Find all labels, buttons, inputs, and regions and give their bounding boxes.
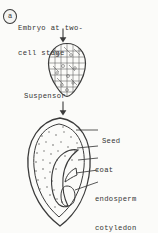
badge-letter: a [8,13,12,20]
down-arrow-icon [57,28,69,43]
seed-cross-section-drawing [20,116,98,228]
seed-label-endosperm: endosperm [95,195,137,205]
figure-page: a Embryo at two- cell stage S [0,0,158,233]
seed-label-list: Seed coat endosperm cotyledon epicotyl h… [95,118,137,233]
seed-label-seed: Seed [95,137,137,147]
seed-label-coat: coat [95,166,137,176]
down-arrow-icon [57,101,69,116]
seed-label-cotyledon: cotyledon [95,224,137,233]
suspensor-label: Suspensor [24,92,66,100]
figure-part-label-badge: a [3,9,17,24]
two-cell-embryo-drawing [44,42,90,98]
embryo-caption-line-1: Embryo at two- [18,24,83,32]
